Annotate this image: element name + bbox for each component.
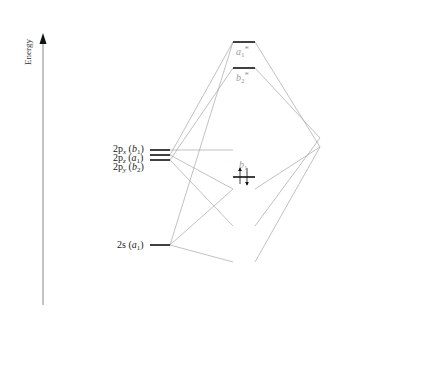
h2o-b2-star-label: b2* (236, 70, 250, 85)
energy-label: Energy (23, 39, 33, 65)
energy-arrow-icon (40, 33, 47, 44)
label-2s: 2s (a1) (117, 239, 144, 252)
oxygen-labels: 2px (b1) 2pz (a1) 2py (b2) 2s (a1) (113, 143, 144, 252)
water-levels: a1* b2* b1 (233, 42, 255, 185)
mo-diagram: Energy 2px (b1) 2 (0, 0, 438, 392)
h2o-a1-star-label: a1* (236, 44, 250, 59)
oxygen-levels (150, 150, 170, 245)
energy-axis: Energy (23, 33, 47, 305)
